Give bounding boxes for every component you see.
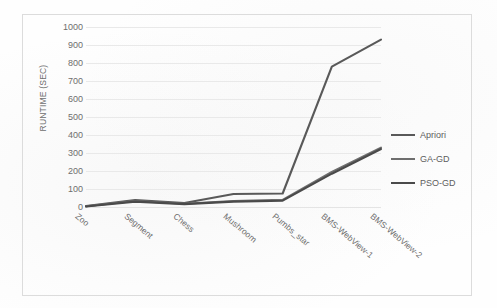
chart-frame: RUNTIME (SEC) 01002003004005006007008009…	[22, 14, 472, 296]
legend-label: GA-GD	[420, 154, 450, 164]
y-tick-label: 200	[41, 166, 83, 176]
x-tick-label: BMS-WebView-2	[369, 211, 425, 260]
y-tick-label: 0	[41, 202, 83, 212]
x-tick-label: Chess	[172, 211, 197, 234]
y-tick-label: 500	[41, 112, 83, 122]
x-tick-label: Zoo	[74, 211, 92, 228]
series-line	[86, 149, 381, 206]
legend-line-swatch	[391, 182, 415, 184]
legend-item: Apriori	[391, 123, 467, 147]
chart-plot-wrapper: RUNTIME (SEC) 01002003004005006007008009…	[23, 15, 471, 295]
y-tick-label: 800	[41, 58, 83, 68]
legend-label: PSO-GD	[420, 178, 456, 188]
y-tick-label: 400	[41, 130, 83, 140]
legend-label: Apriori	[420, 130, 446, 140]
series-line	[86, 40, 381, 207]
y-tick-label: 900	[41, 40, 83, 50]
legend-line-swatch	[391, 134, 415, 136]
y-tick-label: 700	[41, 76, 83, 86]
chart-legend: AprioriGA-GDPSO-GD	[391, 123, 467, 195]
legend-item: GA-GD	[391, 147, 467, 171]
y-tick-label: 300	[41, 148, 83, 158]
legend-item: PSO-GD	[391, 171, 467, 195]
series-line	[86, 148, 381, 207]
x-axis-category-labels: ZooSegmentChessMushroomPumbs_starBMS-Web…	[86, 211, 381, 291]
y-tick-label: 100	[41, 184, 83, 194]
x-tick-label: Mushroom	[221, 211, 258, 244]
gridline	[86, 207, 381, 208]
y-tick-label: 1000	[41, 22, 83, 32]
legend-line-swatch	[391, 158, 415, 160]
plot-area	[86, 27, 381, 207]
y-axis-tick-labels: 01002003004005006007008009001000	[41, 27, 83, 207]
x-tick-label: BMS-WebView-1	[319, 211, 375, 260]
series-lines	[86, 27, 381, 207]
y-tick-label: 600	[41, 94, 83, 104]
x-tick-label: Segment	[123, 211, 155, 241]
x-tick-label: Pumbs_star	[270, 211, 311, 248]
